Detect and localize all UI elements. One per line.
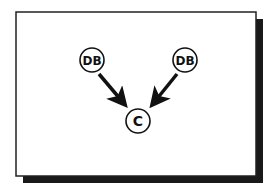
diagram-canvas: DB DB C <box>0 0 275 189</box>
node-db-right: DB <box>173 48 197 72</box>
node-label: DB <box>82 54 101 68</box>
frame <box>16 12 256 176</box>
node-db-left: DB <box>80 48 104 72</box>
node-label: C <box>133 113 143 129</box>
node-c: C <box>126 109 150 133</box>
node-label: DB <box>175 54 194 68</box>
